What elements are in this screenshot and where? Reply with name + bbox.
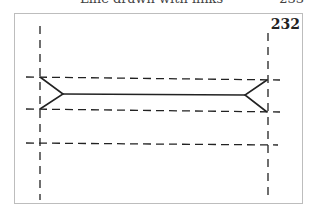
horizontal-guides bbox=[26, 77, 280, 145]
vertical-guides bbox=[40, 26, 268, 200]
horizontal-dashed-guide bbox=[26, 109, 280, 112]
horizontal-dashed-guide bbox=[26, 143, 278, 145]
diagram-canvas bbox=[0, 0, 312, 220]
right-arrowhead bbox=[245, 80, 267, 112]
left-arrowhead bbox=[40, 77, 63, 109]
horizontal-dashed-guide bbox=[26, 77, 280, 80]
solid-link-line bbox=[63, 94, 245, 95]
